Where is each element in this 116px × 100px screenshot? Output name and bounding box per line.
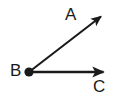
vertex-point-b	[24, 67, 33, 76]
ray-ba	[29, 17, 101, 73]
angle-diagram: A B C	[0, 0, 116, 100]
point-label-c: C	[93, 78, 105, 95]
point-label-b: B	[10, 62, 21, 79]
point-label-a: A	[65, 6, 76, 23]
